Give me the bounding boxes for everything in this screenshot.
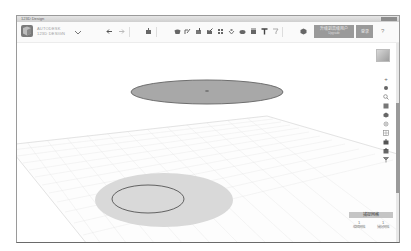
- product-text: 123D DESIGN: [37, 31, 65, 36]
- camera-icon[interactable]: [381, 137, 391, 146]
- visibility-icon[interactable]: [381, 119, 391, 128]
- toolbar-divider: [129, 27, 130, 37]
- upgrade-sublabel: Upgrade: [314, 31, 354, 36]
- undo-arrow-icon[interactable]: [106, 28, 113, 35]
- snap-icon[interactable]: [272, 28, 279, 35]
- pattern-icon[interactable]: [217, 28, 224, 35]
- zoom-icon[interactable]: [381, 92, 391, 101]
- model-display-icon[interactable]: [381, 155, 391, 164]
- snap-grid-label: 捕捉网格: [373, 225, 393, 230]
- vertical-scrollbar[interactable]: [396, 43, 399, 242]
- sketch-icon[interactable]: [184, 28, 191, 35]
- navigation-bar: +: [381, 74, 391, 164]
- primitives-icon[interactable]: [174, 28, 181, 35]
- 3d-viewport[interactable]: +: [17, 43, 399, 242]
- transform-icon[interactable]: [145, 28, 152, 35]
- grouping-icon[interactable]: [228, 28, 235, 35]
- edit-grid-label: 编辑网格: [349, 225, 369, 230]
- construct-icon[interactable]: [195, 28, 202, 35]
- toolbar-divider: [282, 27, 283, 37]
- toolbar-divider: [156, 27, 157, 37]
- main-toolbar: AUTODESK 123D DESIGN: [17, 22, 399, 43]
- material-icon[interactable]: [300, 28, 307, 35]
- snap-grid-widget: 捕捉网格 1 编辑网格 1 捕捉网格: [349, 212, 393, 236]
- login-button[interactable]: 登录: [356, 25, 373, 38]
- material-display-icon[interactable]: [381, 146, 391, 155]
- disk-shadow: [95, 173, 233, 227]
- app-name: AUTODESK 123D DESIGN: [37, 26, 65, 36]
- edit-grid-setting[interactable]: 1 编辑网格: [349, 220, 369, 230]
- pan-icon[interactable]: +: [381, 74, 391, 83]
- measure-icon[interactable]: [250, 28, 257, 35]
- help-button[interactable]: ?: [381, 28, 384, 34]
- window-controls[interactable]: [381, 17, 397, 21]
- combine-icon[interactable]: [239, 28, 246, 35]
- scrollbar-thumb[interactable]: [396, 103, 399, 193]
- redo-arrow-icon[interactable]: [118, 28, 125, 35]
- orbit-icon[interactable]: [381, 83, 391, 92]
- upgrade-button[interactable]: 升级到高级用户 Upgrade: [314, 25, 354, 38]
- chevron-down-icon[interactable]: [75, 31, 81, 34]
- viewcube[interactable]: [376, 49, 390, 62]
- grid-icon[interactable]: [381, 128, 391, 137]
- view-icon[interactable]: [381, 110, 391, 119]
- modify-icon[interactable]: [206, 28, 213, 35]
- snap-grid-setting[interactable]: 1 捕捉网格: [373, 220, 393, 230]
- floating-disk[interactable]: [131, 80, 283, 104]
- app-logo-icon[interactable]: [21, 25, 33, 37]
- app-window: 123D Design AUTODESK 123D DESIGN: [16, 15, 400, 243]
- snap-grid-title: 捕捉网格: [349, 212, 393, 218]
- fit-icon[interactable]: [381, 101, 391, 110]
- text-icon[interactable]: [261, 28, 268, 35]
- disk-center-mark: [205, 90, 209, 92]
- scene-canvas[interactable]: [17, 43, 400, 243]
